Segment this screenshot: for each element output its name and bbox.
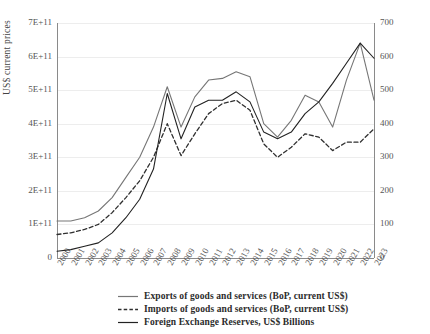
series-line (57, 100, 374, 234)
y-axis-right-tick-label: 100 (380, 218, 420, 228)
line-chart: US$ current prices 01E+112E+113E+114E+11… (0, 0, 430, 334)
plot-area (57, 23, 374, 258)
y-axis-right-tick-label: 700 (380, 17, 420, 27)
y-axis-right-tick-label: 400 (380, 118, 420, 128)
legend-label: Imports of goods and services (BoP, curr… (144, 304, 348, 314)
legend-item[interactable]: Foreign Exchange Reserves, US$ Billions (118, 316, 348, 328)
y-axis-left-title: US$ current prices (2, 0, 12, 95)
y-axis-left-tick-label: 7E+11 (12, 17, 52, 27)
legend-line-icon (118, 318, 138, 327)
legend-label: Exports of goods and services (BoP, curr… (144, 291, 348, 301)
legend-line-icon (118, 305, 138, 314)
y-axis-left-tick-label: 4E+11 (12, 118, 52, 128)
chart-legend: Exports of goods and services (BoP, curr… (118, 290, 348, 329)
y-axis-right-tick-label: 200 (380, 185, 420, 195)
y-axis-right-tick-label: 500 (380, 84, 420, 94)
y-axis-right-tick-label: 300 (380, 151, 420, 161)
y-axis-left-tick-label: 1E+11 (12, 218, 52, 228)
legend-item[interactable]: Imports of goods and services (BoP, curr… (118, 303, 348, 315)
y-axis-left-tick-label: 0 (12, 252, 52, 262)
y-axis-left-tick-label: 6E+11 (12, 51, 52, 61)
series-lines (57, 23, 374, 258)
y-axis-left-tick-label: 5E+11 (12, 84, 52, 94)
series-line (57, 43, 374, 251)
y-axis-right-tick-label: 600 (380, 51, 420, 61)
legend-line-icon (118, 292, 138, 301)
legend-item[interactable]: Exports of goods and services (BoP, curr… (118, 290, 348, 302)
series-line (57, 43, 374, 221)
legend-label: Foreign Exchange Reserves, US$ Billions (144, 317, 314, 327)
y-axis-left-tick-label: 2E+11 (12, 185, 52, 195)
y-axis-left-tick-label: 3E+11 (12, 151, 52, 161)
